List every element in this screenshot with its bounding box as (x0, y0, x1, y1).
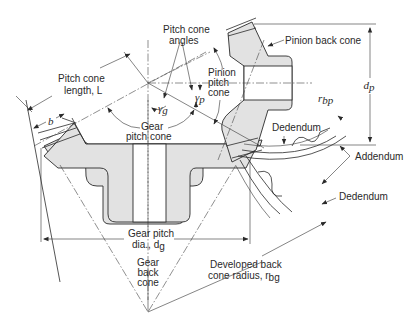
label-pitch-cone-length: Pitch cone (58, 73, 105, 84)
label-gear-pitch-cone-2: pitch cone (126, 131, 172, 142)
pitch-cone-angle-arrows (152, 42, 200, 110)
label-gamma-g: γg (158, 102, 168, 116)
label-pinion-pitch-dia: dp (364, 79, 376, 93)
label-pitch-cone-angles: Pitch cone (163, 24, 210, 35)
label-gamma-p: γp (195, 91, 205, 105)
label-pinion-back-cone: Pinion back cone (285, 35, 362, 46)
label-pitch-cone-angles-2: angles (169, 35, 198, 46)
label-gear-pitch-dia: Gear pitch (128, 228, 174, 239)
label-pitch-cone-length-2: length, L (64, 85, 103, 96)
label-pinion-pitch-cone-3: cone (208, 87, 230, 98)
label-face-width: b (48, 115, 54, 127)
label-dedendum-bottom: Dedendum (339, 191, 388, 202)
label-gear-back-cone-3: cone (137, 277, 159, 288)
label-dedendum-top: Dedendum (272, 122, 321, 133)
bevel-gear-diagram: Pitch cone angles Pitch cone length, L b… (0, 0, 412, 329)
label-developed-back-cone: Developed back (210, 259, 283, 270)
pinion-section (222, 18, 292, 162)
label-r-bp: rbp (318, 92, 334, 106)
label-addendum: Addendum (355, 151, 403, 162)
label-gear-pitch-dia-2: dia., dg (132, 239, 165, 252)
